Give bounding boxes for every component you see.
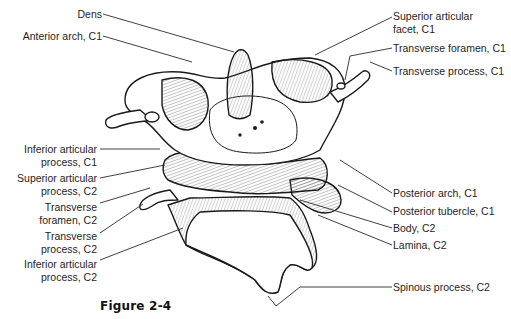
label-line-2: process, C2 [0,243,97,256]
label-line-1: Inferior articular [0,258,97,271]
label-line-1: Superior articular [0,172,97,185]
label-transverse-process-c1: Transverse process, C1 [393,65,504,78]
label-line-2: process, C1 [0,156,97,169]
label-posterior-arch-c1: Posterior arch, C1 [393,187,478,200]
label-superior-articular-facet-c1: Superior articular facet, C1 [393,10,473,35]
anatomy-figure: Dens Anterior arch, C1 Inferior articula… [0,0,511,319]
label-lamina-c2: Lamina, C2 [393,239,447,252]
label-line-1: Transverse [0,201,97,214]
label-inferior-articular-process-c1: Inferior articular process, C1 [0,143,97,168]
label-line-2: facet, C1 [393,23,473,36]
label-superior-articular-process-c2: Superior articular process, C2 [0,172,97,197]
figure-caption: Figure 2-4 [100,299,171,313]
label-transverse-foramen-c2: Transverse foramen, C2 [0,201,97,226]
label-body-c2: Body, C2 [393,222,435,235]
label-line-2: process, C2 [0,271,97,284]
label-dens: Dens [50,8,102,21]
label-transverse-foramen-c1: Transverse foramen, C1 [393,42,506,55]
label-line-1: Superior articular [393,10,473,23]
label-anterior-arch-c1: Anterior arch, C1 [0,30,102,43]
label-posterior-tubercle-c1: Posterior tubercle, C1 [393,205,495,218]
label-line-2: foramen, C2 [0,214,97,227]
label-line-1: Transverse [0,230,97,243]
label-inferior-articular-process-c2: Inferior articular process, C2 [0,258,97,283]
label-line-1: Inferior articular [0,143,97,156]
label-transverse-process-c2: Transverse process, C2 [0,230,97,255]
label-spinous-process-c2: Spinous process, C2 [393,281,490,294]
label-line-2: process, C2 [0,185,97,198]
